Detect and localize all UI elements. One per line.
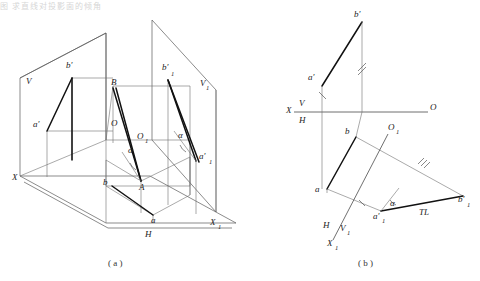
label-a-a: a <box>151 215 156 225</box>
label-b-bprime: b′ <box>354 9 362 19</box>
label-b-V1-sub: 1 <box>347 229 350 236</box>
label-a-alpha-left: α <box>128 145 133 155</box>
label-a-aprime1: a′ <box>199 151 207 161</box>
segment-a-b-horizontal <box>112 186 153 215</box>
label-a-O1: O <box>137 131 144 141</box>
segment-a-prime-b-prime <box>47 78 72 160</box>
label-a-B: B <box>111 77 117 87</box>
tick-marks <box>319 63 430 206</box>
label-a-X1: X <box>209 217 216 227</box>
label-a-alpha-right: α <box>178 130 183 140</box>
v-plane <box>20 33 106 176</box>
label-b-X: X <box>285 105 292 115</box>
label-b-O: O <box>430 102 437 112</box>
label-b-bprime1: b′ <box>458 194 466 204</box>
angle-alpha-left <box>122 152 141 181</box>
label-a-O: O <box>111 118 118 128</box>
label-b-O1: O <box>388 122 395 132</box>
label-b-V: V <box>299 98 306 108</box>
label-b-alpha: α <box>390 198 395 208</box>
technical-drawing-svg: .thin{stroke:#5a5a5a;stroke-width:.7;fil… <box>0 0 480 281</box>
label-b-V1: V <box>340 223 347 233</box>
label-a-A: A <box>138 182 145 192</box>
drawing-canvas: 图 求直线对投影面的倾角 .thin{stroke:#5a5a5a;stroke… <box>0 0 480 281</box>
label-b-aprime: a′ <box>308 72 316 82</box>
label-b-X1-sub: 1 <box>335 244 338 251</box>
segment-a1-prime-b1-prime <box>168 80 199 162</box>
label-a-O1-sub: 1 <box>145 137 148 144</box>
caption-figure-a: ( a ) <box>108 258 123 268</box>
label-b-H: H <box>298 115 306 125</box>
front-view-projection <box>322 22 362 112</box>
label-a-b: b <box>103 177 108 187</box>
label-a-bprime1: b′ <box>162 62 170 72</box>
label-b-H2: H <box>322 220 330 230</box>
h-plane <box>20 176 236 228</box>
caption-figure-b: ( b ) <box>358 258 373 268</box>
top-view-projection <box>322 112 362 193</box>
label-a-H: H <box>144 229 152 239</box>
label-a-V1-sub: 1 <box>206 84 209 91</box>
label-b-a: a <box>315 184 320 194</box>
label-a-bprime: b′ <box>66 60 74 70</box>
figure-b-labels: b′ a′ X V H O b O 1 a α TL b′ 1 a′ 1 H V… <box>285 9 470 251</box>
label-b-bprime1-sub: 1 <box>467 201 470 208</box>
label-b-TL: TL <box>419 207 429 217</box>
label-b-aprime1-sub: 1 <box>382 217 385 224</box>
label-a-bprime1-sub: 1 <box>171 70 174 77</box>
label-b-b: b <box>345 126 350 136</box>
label-a-X: X <box>11 172 18 182</box>
label-b-X1: X <box>326 238 333 248</box>
label-a-aprime1-sub: 1 <box>209 158 212 165</box>
label-a-X1-sub: 1 <box>218 223 221 230</box>
label-b-O1-sub: 1 <box>396 128 399 135</box>
figure-b: b′ a′ X V H O b O 1 a α TL b′ 1 a′ 1 H V… <box>285 9 470 251</box>
v1-plane <box>152 20 216 212</box>
label-b-aprime1: a′ <box>373 211 381 221</box>
label-a-aprime: a′ <box>33 119 41 129</box>
figure-a: V b′ B b′ 1 V 1 a′ O O 1 α α a′ 1 X b A … <box>11 20 236 239</box>
label-a-V: V <box>26 76 33 86</box>
